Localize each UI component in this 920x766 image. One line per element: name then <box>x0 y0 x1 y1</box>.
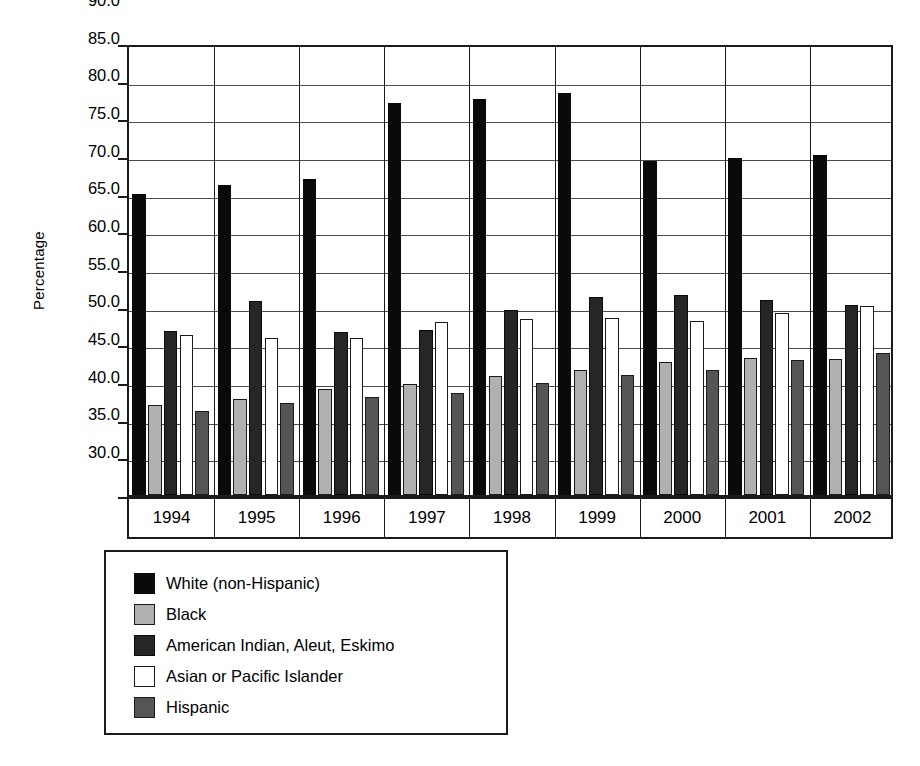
x-axis-label-1999: 1999 <box>555 499 640 537</box>
y-axis-tick-label: 60.0 <box>42 218 120 235</box>
bar-asian_or_pacific_islander-1994 <box>180 335 194 495</box>
bar-asian_or_pacific_islander-1996 <box>350 338 364 495</box>
y-axis-tick-mark <box>118 497 127 499</box>
group-separator <box>469 47 470 495</box>
bar-white_non_hispanic-1994 <box>132 194 146 495</box>
legend-label-hispanic: Hispanic <box>166 698 229 717</box>
bar-american_indian_aleut_eskimo-2000 <box>674 295 688 495</box>
legend-swatch-icon-asian_or_pacific_islander <box>134 666 155 687</box>
bar-black-2001 <box>744 358 758 495</box>
y-axis-tick-label: 30.0 <box>42 444 120 461</box>
y-axis-tick-mark <box>118 233 127 235</box>
bar-black-1995 <box>233 399 247 495</box>
bar-group <box>214 47 299 495</box>
bar-hispanic-2000 <box>706 370 720 495</box>
legend-swatch-icon-american_indian_aleut_eskimo <box>134 635 155 656</box>
y-axis-tick-label: 80.0 <box>42 67 120 84</box>
y-axis-tick-mark <box>118 45 127 47</box>
chart-figure: Percentage 90.085.080.075.070.065.060.05… <box>0 0 920 766</box>
bar-group <box>810 47 895 495</box>
y-axis-tick-labels: 90.085.080.075.070.065.060.055.050.045.0… <box>35 0 120 452</box>
x-axis-divider <box>384 499 385 537</box>
bar-american_indian_aleut_eskimo-1996 <box>334 332 348 495</box>
x-axis-label-1996: 1996 <box>299 499 384 537</box>
legend-item-asian_or_pacific_islander: Asian or Pacific Islander <box>134 661 506 692</box>
bar-black-1999 <box>574 370 588 495</box>
y-axis-tick-mark <box>118 158 127 160</box>
bar-asian_or_pacific_islander-1998 <box>520 319 534 495</box>
group-separator <box>725 47 726 495</box>
bar-white_non_hispanic-2002 <box>813 155 827 496</box>
legend-label-american_indian_aleut_eskimo: American Indian, Aleut, Eskimo <box>166 636 394 655</box>
bar-asian_or_pacific_islander-2001 <box>775 313 789 495</box>
bar-hispanic-1994 <box>195 411 209 495</box>
legend-swatch-icon-black <box>134 604 155 625</box>
bar-hispanic-1995 <box>280 403 294 495</box>
bar-hispanic-1996 <box>365 397 379 495</box>
bar-white_non_hispanic-1999 <box>558 93 572 495</box>
y-axis-tick-mark <box>118 346 127 348</box>
bar-american_indian_aleut_eskimo-1999 <box>589 297 603 495</box>
bar-white_non_hispanic-1995 <box>218 185 232 495</box>
legend-label-white_non_hispanic: White (non-Hispanic) <box>166 574 320 593</box>
bar-black-1994 <box>148 405 162 495</box>
bar-american_indian_aleut_eskimo-1994 <box>164 331 178 495</box>
x-axis-label-1997: 1997 <box>384 499 469 537</box>
y-axis-tick-mark <box>118 196 127 198</box>
bar-white_non_hispanic-1996 <box>303 179 317 495</box>
plot-area <box>127 45 893 497</box>
bar-black-2002 <box>829 359 843 495</box>
y-axis-tick-label: 70.0 <box>42 142 120 159</box>
y-axis-tick-label: 90.0 <box>42 0 120 8</box>
bar-black-1997 <box>403 384 417 495</box>
y-axis-tick-mark <box>118 384 127 386</box>
group-separator <box>555 47 556 495</box>
y-axis-tick-label: 35.0 <box>42 406 120 423</box>
legend-item-white_non_hispanic: White (non-Hispanic) <box>134 568 506 599</box>
bar-group <box>299 47 384 495</box>
y-axis-tick-label: 45.0 <box>42 331 120 348</box>
bar-group <box>469 47 554 495</box>
legend-label-black: Black <box>166 605 206 624</box>
y-axis-tick-label: 75.0 <box>42 105 120 122</box>
legend-item-american_indian_aleut_eskimo: American Indian, Aleut, Eskimo <box>134 630 506 661</box>
y-axis-tick-mark <box>118 83 127 85</box>
bar-black-1996 <box>318 389 332 495</box>
x-axis-label-1995: 1995 <box>214 499 299 537</box>
group-separator <box>810 47 811 495</box>
bar-group <box>384 47 469 495</box>
x-axis-divider <box>299 499 300 537</box>
bar-white_non_hispanic-1998 <box>473 99 487 495</box>
y-axis-tick-label: 40.0 <box>42 368 120 385</box>
y-axis-tick-mark <box>118 271 127 273</box>
x-axis-label-1998: 1998 <box>469 499 554 537</box>
x-axis-label-2001: 2001 <box>725 499 810 537</box>
bar-group <box>725 47 810 495</box>
x-axis-divider <box>640 499 641 537</box>
bar-black-2000 <box>659 362 673 495</box>
legend-item-hispanic: Hispanic <box>134 692 506 723</box>
group-separator <box>640 47 641 495</box>
y-axis-tick-label: 55.0 <box>42 255 120 272</box>
legend-swatch-icon-hispanic <box>134 697 155 718</box>
y-axis-tick-label: 50.0 <box>42 293 120 310</box>
bar-american_indian_aleut_eskimo-2002 <box>845 305 859 495</box>
bar-asian_or_pacific_islander-1999 <box>605 318 619 495</box>
bar-asian_or_pacific_islander-2000 <box>690 321 704 495</box>
bar-american_indian_aleut_eskimo-1998 <box>504 310 518 495</box>
bar-hispanic-1998 <box>536 383 550 495</box>
group-separator <box>384 47 385 495</box>
x-axis-divider <box>725 499 726 537</box>
bar-hispanic-2001 <box>791 360 805 495</box>
bar-hispanic-1997 <box>451 393 465 495</box>
bar-asian_or_pacific_islander-1995 <box>265 338 279 495</box>
x-axis-divider <box>214 499 215 537</box>
bar-asian_or_pacific_islander-2002 <box>860 306 874 495</box>
x-axis-label-2002: 2002 <box>810 499 895 537</box>
group-separator <box>214 47 215 495</box>
bar-hispanic-1999 <box>621 375 635 495</box>
y-axis-tick-label: 65.0 <box>42 180 120 197</box>
group-separator <box>299 47 300 495</box>
bar-group <box>555 47 640 495</box>
y-axis-tick-mark <box>118 422 127 424</box>
